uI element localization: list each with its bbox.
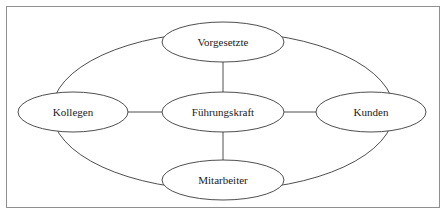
node-fuehrungskraft-label: Führungskraft bbox=[192, 106, 254, 118]
node-vorgesetzte[interactable]: Vorgesetzte bbox=[162, 22, 284, 62]
node-kollegen-label: Kollegen bbox=[53, 106, 94, 118]
relationship-diagram: Vorgesetzte Kollegen Führungskraft Kunde… bbox=[0, 0, 447, 220]
node-kunden-label: Kunden bbox=[354, 106, 389, 118]
node-kunden[interactable]: Kunden bbox=[316, 92, 426, 132]
node-vorgesetzte-label: Vorgesetzte bbox=[198, 36, 249, 48]
diagram-canvas: Vorgesetzte Kollegen Führungskraft Kunde… bbox=[0, 0, 447, 220]
node-fuehrungskraft[interactable]: Führungskraft bbox=[162, 92, 284, 132]
node-mitarbeiter[interactable]: Mitarbeiter bbox=[162, 160, 284, 200]
node-mitarbeiter-label: Mitarbeiter bbox=[198, 174, 248, 186]
node-kollegen[interactable]: Kollegen bbox=[18, 92, 128, 132]
